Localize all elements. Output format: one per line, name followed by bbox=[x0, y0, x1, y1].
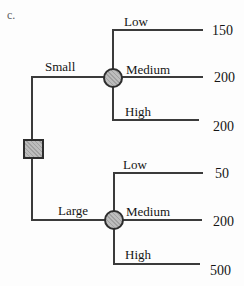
payoff-value-large-high: 500 bbox=[210, 264, 231, 278]
outcome-line-small-low bbox=[112, 29, 203, 31]
outcome-line-small-high bbox=[112, 119, 199, 121]
outcome-label-small-low: Low bbox=[124, 15, 148, 28]
decision-node bbox=[23, 139, 44, 159]
outcome-label-small-medium: Medium bbox=[126, 63, 170, 76]
outcome-label-large-low: Low bbox=[123, 158, 147, 171]
outcome-line-large-high bbox=[113, 263, 200, 265]
outcome-line-large-low bbox=[113, 172, 203, 174]
decision-tree-diagram: c. Small Large Low Medium High Low Mediu… bbox=[0, 0, 244, 286]
branch-label-small: Small bbox=[45, 60, 75, 73]
payoff-value-large-low: 50 bbox=[215, 167, 229, 181]
branch-label-large: Large bbox=[58, 204, 88, 217]
outcome-label-small-high: High bbox=[125, 105, 151, 118]
outcome-label-large-medium: Medium bbox=[126, 205, 170, 218]
figure-label: c. bbox=[7, 8, 15, 23]
chance-node-small bbox=[103, 68, 123, 88]
chance-node-large bbox=[104, 210, 124, 230]
payoff-value-small-low: 150 bbox=[212, 24, 233, 38]
outcome-label-large-high: High bbox=[125, 248, 151, 261]
payoff-value-small-high: 200 bbox=[213, 120, 234, 134]
payoff-value-small-medium: 200 bbox=[214, 71, 235, 85]
payoff-value-large-medium: 200 bbox=[213, 215, 234, 229]
